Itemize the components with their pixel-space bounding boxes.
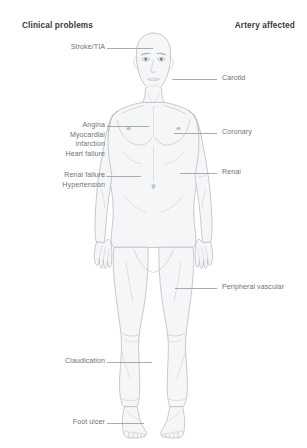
callout-label-renal: Renal	[222, 168, 241, 178]
callout-label-angina-mi-heart-failure: AnginaMyocardialinfarctionHeart failure	[65, 121, 105, 159]
vascular-disease-diagram: Clinical problems Artery affected	[0, 0, 307, 448]
callout-label-foot-ulcer: Foot ulcer	[73, 418, 105, 428]
callout-label-renal-failure-hypertension: Renal failureHypertension	[62, 171, 105, 190]
callout-label-line: Claudication	[65, 357, 105, 367]
callout-label-line: Myocardial	[65, 131, 105, 141]
callout-label-coronary: Coronary	[222, 128, 252, 138]
callout-label-line: infarction	[65, 140, 105, 150]
clinical-problems-header: Clinical problems	[22, 21, 93, 30]
callout-label-line: Renal failure	[62, 171, 105, 181]
callout-label-stroke-tia: Stroke/TIA	[71, 43, 105, 53]
callout-label-line: Heart failure	[65, 150, 105, 160]
leader-lines	[107, 48, 217, 423]
artery-affected-header: Artery affected	[235, 21, 295, 30]
callout-label-line: Coronary	[222, 128, 252, 138]
callout-label-carotid: Carotid	[222, 74, 245, 84]
callout-label-claudication: Claudication	[65, 357, 105, 367]
callout-label-line: Peripheral vascular	[222, 283, 284, 293]
callout-label-line: Stroke/TIA	[71, 43, 105, 53]
callout-label-line: Carotid	[222, 74, 245, 84]
callout-label-line: Foot ulcer	[73, 418, 105, 428]
human-body-figure	[0, 0, 307, 448]
callout-label-line: Angina	[65, 121, 105, 131]
callout-label-line: Hypertension	[62, 181, 105, 191]
callout-label-peripheral-vascular: Peripheral vascular	[222, 283, 284, 293]
callout-label-line: Renal	[222, 168, 241, 178]
